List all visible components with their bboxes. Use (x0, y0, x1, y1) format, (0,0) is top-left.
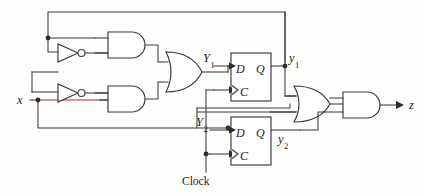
label-Y2: Y2 (196, 116, 207, 131)
circuit-diagram: Y1 Y2 y1 y2 x z Clock D Q C D Q C (0, 0, 424, 196)
label-output-z: z (409, 99, 414, 112)
and-gate-top (95, 32, 168, 62)
flipflop-1-clk-pin-label: C (240, 85, 248, 100)
wire-Y1-to-ff1 (228, 66, 229, 72)
label-y1: y1 (289, 52, 299, 67)
flipflop-1-d-pin-label: D (236, 62, 245, 77)
label-input-x: x (17, 94, 23, 107)
label-Y1: Y1 (203, 52, 214, 67)
input-x-terminal (36, 98, 41, 103)
label-clock: Clock (182, 176, 209, 188)
flipflop-1-q-pin-label: Q (256, 62, 265, 77)
label-y2: y2 (278, 133, 288, 148)
flipflop-2-clk-pin-label: C (240, 149, 248, 164)
circuit-schematic-svg (0, 0, 424, 196)
flipflop-2-d-pin-label: D (236, 126, 245, 141)
flipflop-2-q-pin-label: Q (256, 126, 265, 141)
or-gate-left (166, 52, 228, 92)
or-gate-right (270, 86, 343, 122)
junction-top-left (46, 36, 51, 41)
and-gate-mid (95, 82, 168, 112)
flipflop-1-body (214, 53, 285, 101)
